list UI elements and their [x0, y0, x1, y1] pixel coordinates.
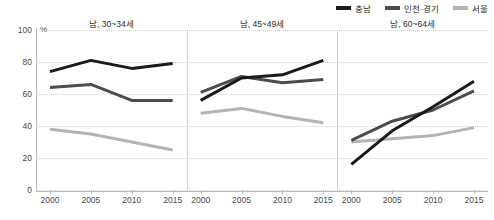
legend-label: 인천·경기: [404, 2, 439, 14]
x-axis-tick: [242, 190, 243, 194]
x-axis-tick-label: 2015: [314, 195, 333, 205]
x-axis-tick: [474, 190, 475, 194]
x-axis-tick: [323, 190, 324, 194]
x-axis-tick: [433, 190, 434, 194]
y-axis-tick-label: 80: [23, 57, 32, 67]
x-axis-tick: [392, 190, 393, 194]
panel-series-layer: [36, 30, 488, 190]
line-swatch-icon: [336, 6, 351, 10]
legend-item[interactable]: 충남: [336, 2, 371, 14]
x-axis-tick-label: 2010: [122, 195, 141, 205]
y-axis-tick-label: 40: [23, 121, 32, 131]
y-axis-tick-label: 60: [23, 89, 32, 99]
x-axis-tick-label: 2000: [342, 195, 361, 205]
series-line: [351, 91, 474, 141]
x-axis-tick: [173, 190, 174, 194]
x-axis-tick-label: 2005: [383, 195, 402, 205]
panel-title: 남, 60~64세: [390, 17, 435, 29]
legend-item[interactable]: 인천·경기: [385, 2, 439, 14]
series-line: [351, 128, 474, 142]
line-swatch-icon: [453, 6, 468, 10]
legend-label: 충남: [355, 2, 371, 14]
x-axis-tick-label: 2015: [465, 195, 484, 205]
x-axis-tick-label: 2000: [191, 195, 210, 205]
x-axis-tick-label: 2005: [81, 195, 100, 205]
y-axis-tick-label: 100: [18, 25, 32, 35]
line-swatch-icon: [385, 6, 400, 10]
x-axis-tick-label: 2015: [163, 195, 182, 205]
x-axis-tick-label: 2000: [41, 195, 60, 205]
legend-item[interactable]: 서울: [453, 2, 488, 14]
plot-area: 020406080100남, 30~34세2000200520102015남, …: [36, 30, 488, 190]
x-axis-tick: [50, 190, 51, 194]
chart-legend: 충남인천·경기서울: [336, 2, 488, 14]
gridline: [36, 190, 488, 191]
x-axis-tick-label: 2005: [232, 195, 251, 205]
x-axis-tick: [282, 190, 283, 194]
y-axis-tick-label: 20: [23, 153, 32, 163]
y-axis-tick-label: 0: [27, 185, 32, 195]
x-axis-tick: [132, 190, 133, 194]
legend-label: 서울: [472, 2, 488, 14]
x-axis-tick: [201, 190, 202, 194]
panel-title: 남, 45~49세: [240, 17, 285, 29]
x-axis-line: [36, 191, 488, 192]
x-axis-tick-label: 2010: [273, 195, 292, 205]
x-axis-tick: [351, 190, 352, 194]
panel-title: 남, 30~34세: [89, 17, 134, 29]
series-line: [351, 81, 474, 164]
chart-root: 충남인천·경기서울 % 020406080100남, 30~34세2000200…: [0, 0, 494, 220]
x-axis-tick: [91, 190, 92, 194]
x-axis-tick-label: 2010: [424, 195, 443, 205]
